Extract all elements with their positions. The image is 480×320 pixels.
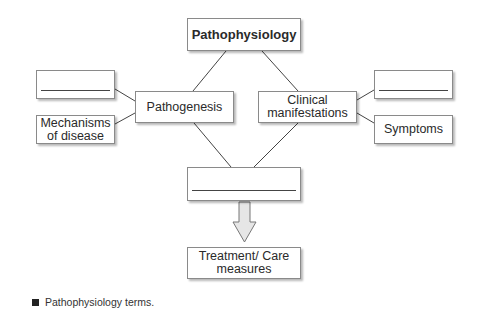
mechanisms-label: Mechanisms of disease bbox=[40, 117, 110, 143]
pathogenesis-box: Pathogenesis bbox=[135, 91, 234, 123]
right-blank-box bbox=[374, 70, 453, 99]
symptoms-box: Symptoms bbox=[374, 115, 453, 144]
pathophysiology-box: Pathophysiology bbox=[187, 18, 301, 51]
fill-in-line bbox=[192, 190, 296, 191]
treatment-box: Treatment/ Care measures bbox=[187, 247, 301, 279]
clinical-manifestations-box: Clinical manifestations bbox=[258, 91, 357, 123]
fill-in-line bbox=[379, 90, 448, 91]
center-blank-box bbox=[187, 167, 301, 201]
figure-caption: Pathophysiology terms. bbox=[32, 296, 154, 308]
left-blank-box bbox=[36, 70, 115, 99]
pathogenesis-label: Pathogenesis bbox=[147, 101, 223, 114]
down-arrow-icon bbox=[233, 202, 256, 242]
symptoms-label: Symptoms bbox=[384, 123, 443, 136]
caption-text: Pathophysiology terms. bbox=[45, 296, 154, 308]
caption-bullet-icon bbox=[32, 299, 39, 306]
clinical-manifestations-label: Clinical manifestations bbox=[263, 94, 352, 120]
treatment-label: Treatment/ Care measures bbox=[196, 250, 292, 276]
fill-in-line bbox=[41, 90, 110, 91]
mechanisms-box: Mechanisms of disease bbox=[36, 115, 115, 144]
pathophysiology-label: Pathophysiology bbox=[192, 28, 297, 41]
